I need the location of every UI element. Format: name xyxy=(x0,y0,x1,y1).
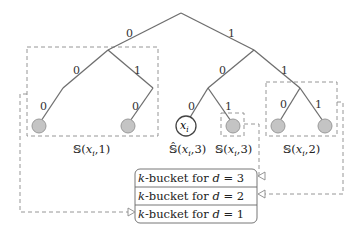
bit-label: 0 xyxy=(132,100,139,113)
leaf-node xyxy=(318,119,332,133)
bit-label: 1 xyxy=(134,64,141,77)
set-label-s2: 𝕊(xi,2) xyxy=(283,142,320,158)
bit-label: 1 xyxy=(228,27,235,40)
leaf-node xyxy=(121,119,135,133)
bit-label: 0 xyxy=(188,100,195,113)
bit-label: 0 xyxy=(73,64,80,77)
set-label-shat3: 𝕊̂(xi,3) xyxy=(169,142,206,158)
kbucket-d3: k-bucket for d = 3 xyxy=(138,171,244,185)
bit-label: 0 xyxy=(219,64,226,77)
leaf-node xyxy=(271,119,285,133)
kbucket-d2: k-bucket for d = 2 xyxy=(138,189,244,203)
trie-diagram: 0 1 0 1 0 0 0 1 0 1 0 1 xi 𝕊(xi,1) 𝕊̂(xi… xyxy=(0,0,362,229)
arrowhead-icon xyxy=(258,190,265,198)
connector-s2-to-d2 xyxy=(264,102,343,194)
bit-label: 0 xyxy=(280,98,287,111)
bit-labels: 0 1 0 1 0 0 0 1 0 1 0 1 xyxy=(40,27,322,113)
set-label-s1: 𝕊(xi,1) xyxy=(73,142,110,158)
kbucket-d1: k-bucket for d = 1 xyxy=(138,207,244,221)
leaf-node xyxy=(226,119,240,133)
bit-label: 1 xyxy=(225,100,232,113)
bit-label: 0 xyxy=(126,27,133,40)
leaf-node xyxy=(32,119,46,133)
bit-label: 1 xyxy=(281,64,288,77)
bit-label: 0 xyxy=(40,100,47,113)
kbucket-table: k-bucket for d = 3 k-bucket for d = 2 k-… xyxy=(135,169,257,223)
set-label-s3: 𝕊(xi,3) xyxy=(215,142,252,158)
bit-label: 1 xyxy=(315,98,322,111)
arrowhead-icon xyxy=(128,208,135,216)
set-box-s1 xyxy=(27,47,158,136)
